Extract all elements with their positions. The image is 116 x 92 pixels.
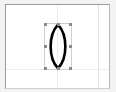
selection-handle-bottom-center[interactable] bbox=[57, 67, 60, 70]
drawing-canvas[interactable] bbox=[5, 4, 110, 89]
selection-handle-bottom-right[interactable] bbox=[69, 67, 72, 70]
selection-handle-top-center[interactable] bbox=[57, 23, 60, 26]
selection-handle-bottom-left[interactable] bbox=[44, 67, 47, 70]
guide-line-vertical-right bbox=[98, 5, 99, 89]
selection-handle-top-right[interactable] bbox=[69, 23, 72, 26]
selection-handle-middle-right[interactable] bbox=[69, 45, 72, 48]
selection-handle-top-left[interactable] bbox=[44, 23, 47, 26]
selection-bounding-box[interactable] bbox=[44, 23, 72, 70]
selection-handle-middle-left[interactable] bbox=[44, 45, 47, 48]
drawing-application bbox=[0, 0, 116, 92]
